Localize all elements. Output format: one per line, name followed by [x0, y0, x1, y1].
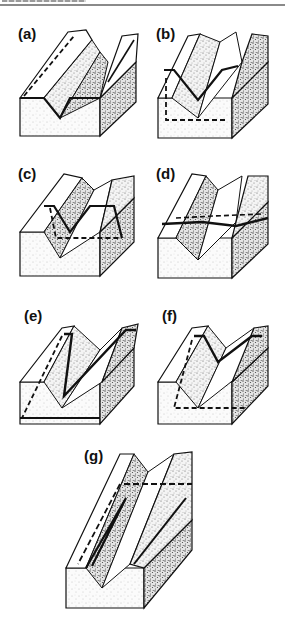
page-header-cut — [0, 0, 285, 5]
panel-d: (d) — [142, 162, 282, 287]
panel-f: (f) — [142, 300, 282, 435]
block-diagram-g — [64, 440, 234, 600]
panel-a: (a) — [4, 22, 140, 147]
header-rule — [0, 4, 285, 6]
panel-c: (c) — [4, 162, 140, 287]
panel-e: (e) — [4, 300, 140, 435]
block-diagram-b — [142, 22, 282, 147]
block-diagram-c — [4, 162, 140, 287]
block-diagram-f — [142, 300, 282, 435]
block-diagram-a — [4, 22, 140, 147]
header-text-illegible — [2, 0, 86, 2]
block-diagram-d — [142, 162, 282, 287]
block-diagram-e — [4, 300, 140, 435]
panel-g: (g) — [64, 440, 234, 600]
panel-b: (b) — [142, 22, 282, 147]
